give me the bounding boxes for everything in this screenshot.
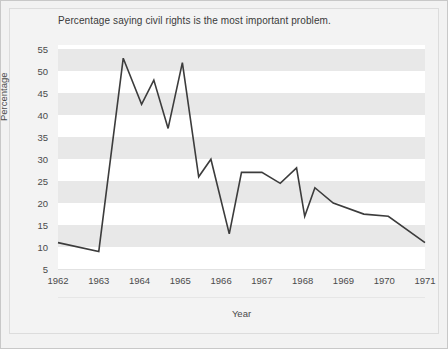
y-axis-tick-labels: 510152025303540455055 [1, 45, 53, 269]
y-axis-tick: 15 [37, 220, 48, 231]
x-axis-tick: 1966 [211, 275, 232, 286]
x-axis-tick-labels: 1962196319641965196619671968196919701971 [58, 275, 425, 291]
y-axis-tick: 30 [37, 154, 48, 165]
chart-figure: Percentage saying civil rights is the mo… [0, 0, 448, 349]
y-axis-tick: 40 [37, 110, 48, 121]
plot-area [58, 45, 425, 269]
x-axis-tick: 1965 [170, 275, 191, 286]
y-axis-tick: 45 [37, 88, 48, 99]
y-axis-tick: 55 [37, 44, 48, 55]
x-axis-line [58, 269, 425, 270]
x-axis-tick: 1968 [292, 275, 313, 286]
x-axis-tick: 1967 [251, 275, 272, 286]
x-axis-tick: 1971 [414, 275, 435, 286]
x-axis-rule [58, 297, 425, 298]
x-axis-tick: 1969 [333, 275, 354, 286]
y-axis-tick: 25 [37, 176, 48, 187]
chart-title: Percentage saying civil rights is the mo… [58, 15, 331, 26]
y-axis-tick: 10 [37, 242, 48, 253]
y-axis-tick: 20 [37, 198, 48, 209]
x-axis-tick: 1970 [374, 275, 395, 286]
y-axis-tick: 35 [37, 132, 48, 143]
y-axis-tick: 5 [43, 264, 48, 275]
x-axis-tick: 1962 [47, 275, 68, 286]
y-axis-tick: 50 [37, 66, 48, 77]
data-series-line [58, 45, 425, 269]
x-axis-title: Year [58, 308, 425, 319]
x-axis-tick: 1964 [129, 275, 150, 286]
x-axis-tick: 1963 [88, 275, 109, 286]
